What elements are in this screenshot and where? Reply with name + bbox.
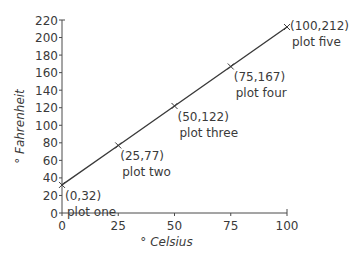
x-tick-label: 50 — [167, 219, 182, 233]
x-axis-title: ° Celsius — [140, 235, 192, 249]
y-tick-label: 120 — [35, 101, 58, 115]
point-name-label: plot four — [236, 86, 287, 100]
y-tick-label: 220 — [35, 14, 58, 28]
y-tick-label: 200 — [35, 31, 58, 45]
point-coordinate-label: (100,212) — [290, 19, 349, 33]
y-tick-label: 40 — [43, 171, 58, 185]
x-tick-label: 100 — [276, 219, 299, 233]
x-marker-icon — [228, 63, 234, 69]
point-name-label: plot two — [122, 165, 171, 179]
point-coordinate-label: (0,32) — [65, 189, 101, 203]
point-name-label: plot one — [67, 205, 116, 219]
point-coordinate-label: (75,167) — [234, 70, 285, 84]
y-tick-label: 180 — [35, 49, 58, 63]
x-tick-label: 25 — [111, 219, 126, 233]
y-tick-label: 80 — [43, 136, 58, 150]
point-name-label: plot three — [180, 126, 239, 140]
y-tick-label: 0 — [50, 207, 58, 221]
y-tick-label: 160 — [35, 66, 58, 80]
y-axis-title: ° Fahrenheit — [13, 88, 27, 164]
y-tick-label: 100 — [35, 119, 58, 133]
x-tick-label: 0 — [58, 219, 66, 233]
x-marker-icon — [172, 103, 178, 109]
y-tick-label: 140 — [35, 84, 58, 98]
point-coordinate-label: (25,77) — [120, 149, 164, 163]
x-tick-label: 75 — [223, 219, 238, 233]
x-marker-icon — [115, 142, 121, 148]
y-tick-label: 20 — [43, 189, 58, 203]
point-coordinate-label: (50,122) — [178, 110, 229, 124]
point-name-label: plot five — [292, 35, 341, 49]
chart: 0204060801001201401601802002200255075100… — [0, 0, 356, 260]
y-tick-label: 60 — [43, 154, 58, 168]
